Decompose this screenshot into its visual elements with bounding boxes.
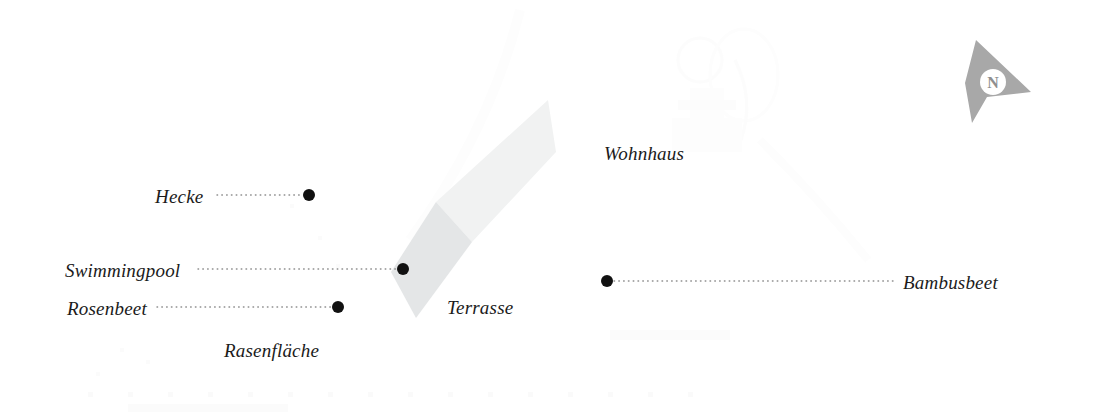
garden-plan-canvas: N Hecke Swimmingpool Rosenbeet Bambusbee… bbox=[0, 0, 1095, 418]
marker-rosenbeet[interactable] bbox=[332, 301, 344, 313]
label-rasenflaeche: Rasenfläche bbox=[224, 341, 319, 360]
plan-graphics bbox=[0, 0, 1095, 418]
marker-swimmingpool[interactable] bbox=[397, 263, 409, 275]
label-wohnhaus: Wohnhaus bbox=[604, 144, 684, 163]
label-bambusbeet: Bambusbeet bbox=[903, 273, 998, 292]
marker-bambusbeet[interactable] bbox=[601, 275, 613, 287]
label-terrasse: Terrasse bbox=[447, 298, 513, 317]
north-arrow-letter: N bbox=[980, 74, 1006, 92]
leader-lines bbox=[157, 195, 897, 307]
label-hecke: Hecke bbox=[155, 187, 203, 206]
marker-hecke[interactable] bbox=[303, 189, 315, 201]
label-swimmingpool: Swimmingpool bbox=[65, 261, 180, 280]
label-rosenbeet: Rosenbeet bbox=[67, 299, 147, 318]
